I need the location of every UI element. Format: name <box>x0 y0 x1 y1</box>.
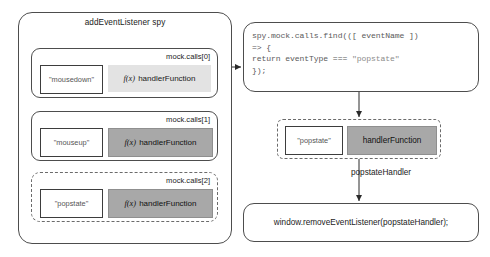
event-name-chip-2: "popstate" <box>40 189 103 218</box>
handler-function-chip-1: f(x) handlerFunction <box>108 128 213 157</box>
event-name-chip-1: "mouseup" <box>40 128 103 157</box>
handler-label-1: handlerFunction <box>139 138 196 147</box>
fx-icon: f(x) <box>125 138 137 147</box>
event-name-chip-0: "mousedown" <box>40 65 103 94</box>
fx-icon: f(x) <box>124 74 136 83</box>
remove-event-listener-box: window.removeEventListener(popstateHandl… <box>243 203 479 242</box>
popstate-handler-edge-label: popstateHandler <box>351 168 411 177</box>
find-code-box: spy.mock.calls.find(([ eventName ]) => {… <box>243 22 479 92</box>
code-line-4: }); <box>252 65 478 77</box>
handler-label-2: handlerFunction <box>139 199 196 208</box>
fx-icon: f(x) <box>125 199 137 208</box>
code-line-3-string: "popstate" <box>352 54 400 63</box>
code-line-3-expr: return eventType === <box>252 54 352 63</box>
handler-function-chip-2: f(x) handlerFunction <box>108 189 213 218</box>
mock-call-label-2: mock.calls[2] <box>166 176 210 186</box>
mock-call-card-1[interactable]: mock.calls[1] "mouseup" f(x) handlerFunc… <box>31 111 218 161</box>
code-line-3: return eventType === "popstate" <box>252 53 478 65</box>
mock-call-card-0[interactable]: mock.calls[0] "mousedown" f(x) handlerFu… <box>31 48 218 98</box>
result-event-name-chip: "popstate" <box>285 126 343 155</box>
handler-label-0: handlerFunction <box>138 74 195 83</box>
mock-call-card-2[interactable]: mock.calls[2] "popstate" f(x) handlerFun… <box>31 172 218 222</box>
found-call-result-box: "popstate" handlerFunction <box>277 119 441 159</box>
code-line-1: spy.mock.calls.find(([ eventName ]) <box>252 30 478 42</box>
spy-panel-title: addEventListener spy <box>18 17 232 28</box>
handler-function-chip-0: f(x) handlerFunction <box>108 65 211 92</box>
remove-event-listener-code: window.removeEventListener(popstateHandl… <box>274 218 448 227</box>
mock-call-label-1: mock.calls[1] <box>166 115 210 125</box>
diagram-canvas: addEventListener spy mock.calls[0] "mous… <box>0 0 490 257</box>
code-line-2: => { <box>252 42 478 54</box>
result-handler-function-chip: handlerFunction <box>347 126 437 155</box>
mock-call-label-0: mock.calls[0] <box>166 52 210 62</box>
